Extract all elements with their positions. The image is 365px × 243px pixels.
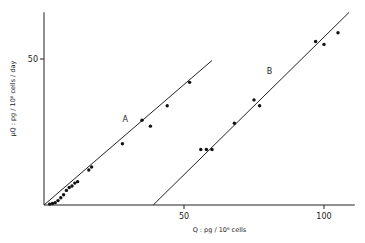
data-point-a [59,196,62,199]
data-point-a [166,104,169,107]
y-tick-label: 50 [28,55,38,64]
data-point-b [252,98,255,101]
scatter-chart: 5010050 AB Q : pg / 10⁶ cells µQ : pg / … [0,0,365,243]
data-point-b [199,148,202,151]
data-point-b [233,122,236,125]
data-point-a [76,180,79,183]
data-point-b [314,40,317,43]
data-points [48,31,340,206]
fit-lines [44,12,349,205]
axes [44,12,355,205]
data-point-a [48,202,51,205]
data-point-b [258,104,261,107]
x-tick-label: 100 [316,212,331,221]
x-axis-title: Q : pg / 10⁶ cells [193,226,247,234]
data-point-b [205,148,208,151]
data-point-a [140,119,143,122]
data-point-a [149,124,152,127]
series-label-a: A [122,115,128,124]
data-point-a [54,201,57,204]
fit-line-a [44,60,212,205]
fit-line-b [153,12,349,205]
data-point-b [336,31,339,34]
data-point-a [121,142,124,145]
data-point-a [62,193,65,196]
data-point-a [70,184,73,187]
data-point-a [188,81,191,84]
data-point-a [87,168,90,171]
data-point-a [90,165,93,168]
data-point-b [210,148,213,151]
series-label-b: B [267,67,273,76]
y-axis-title: µQ : pg / 10⁶ cells / day [9,61,17,137]
ticks: 5010050 [28,55,332,221]
x-tick-label: 50 [179,212,189,221]
data-point-a [56,199,59,202]
data-point-a [65,189,68,192]
series-labels: AB [122,67,272,124]
data-point-b [322,43,325,46]
